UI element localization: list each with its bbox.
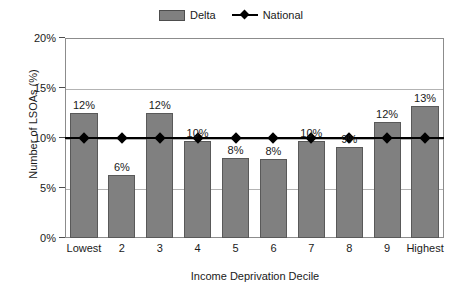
x-axis-tick-label: Lowest <box>65 242 103 255</box>
x-axis-tick-label: Highest <box>406 242 444 255</box>
x-axis-tick-label: 5 <box>217 242 255 255</box>
line-diamond-swatch-icon <box>232 10 258 20</box>
bar-swatch-icon <box>159 10 185 21</box>
x-axis-tick-label: 7 <box>292 242 330 255</box>
x-axis-tick-label: 6 <box>255 242 293 255</box>
y-axis-tick-label: 20% <box>34 32 56 44</box>
x-axis-tick-label: 4 <box>179 242 217 255</box>
y-axis-tick: 0% <box>0 232 65 244</box>
chart-legend: Delta National <box>0 5 462 25</box>
y-axis-tick-label: 15% <box>34 82 56 94</box>
y-axis-tick-label: 0% <box>40 232 56 244</box>
x-axis-tick-label: 9 <box>368 242 406 255</box>
x-axis-tick-label: 3 <box>141 242 179 255</box>
y-axis-tick: 10% <box>0 132 65 144</box>
legend-label-delta: Delta <box>190 10 216 21</box>
legend-entry-national: National <box>232 10 303 21</box>
x-axis-tick-label: 8 <box>330 242 368 255</box>
x-axis-tick-label: 2 <box>103 242 141 255</box>
x-axis-title: Income Deprivation Decile <box>65 270 445 282</box>
y-axis-tick: 20% <box>0 32 65 44</box>
legend-label-national: National <box>263 10 303 21</box>
x-axis-tick-labels: Lowest23456789Highest <box>65 38 444 238</box>
y-axis-tick-label: 5% <box>40 182 56 194</box>
y-axis-tick: 15% <box>0 82 65 94</box>
y-axis-tick: 5% <box>0 182 65 194</box>
y-axis-ticks: 0%5%10%15%20% <box>0 0 65 292</box>
chart-container: Delta National Number of LSOAs (%) 0%5%1… <box>0 0 462 292</box>
y-axis-tick-label: 10% <box>34 132 56 144</box>
legend-entry-delta: Delta <box>159 10 216 21</box>
